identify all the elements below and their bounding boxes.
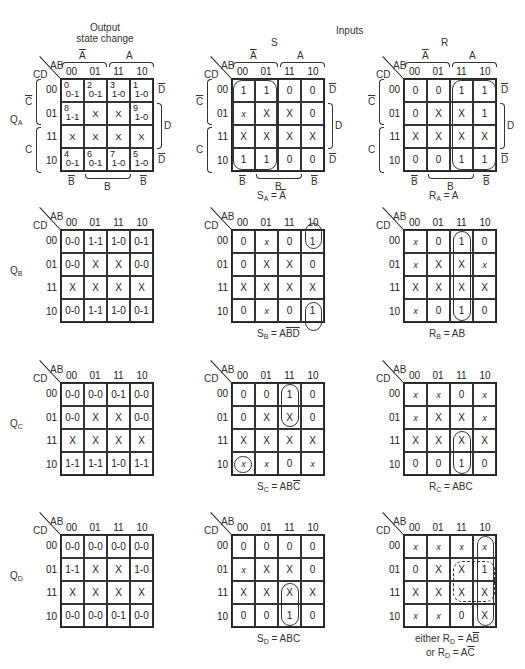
cell-value: x (413, 306, 417, 316)
cell-value: 0-0 (65, 541, 79, 552)
cell-value: 1-1 (134, 458, 148, 469)
cell-value: X (138, 587, 145, 598)
row-label: 01 (384, 564, 400, 575)
kmap-cell: X (427, 125, 450, 148)
cell-value: X (435, 435, 442, 446)
cell-value: x (436, 611, 440, 621)
cell-value: X (138, 435, 145, 446)
cell-value: X (435, 108, 442, 119)
kmap-cell: X (427, 581, 450, 604)
d-bar-label-bottom: D (158, 154, 165, 165)
eq-sign: = (441, 328, 452, 339)
kmap-cell: X (404, 429, 427, 452)
kmap-cell: 0 (278, 148, 301, 171)
eq-rhs: ABC (280, 633, 301, 644)
row-label: 11 (212, 282, 228, 293)
c-bar-label: C (196, 96, 203, 107)
cell-value: 0 (436, 236, 442, 247)
kmap-cell: X (473, 429, 496, 452)
cell-value: X (92, 108, 98, 119)
kmap-cell: 31-0 (107, 79, 130, 102)
row-label: 01 (384, 412, 400, 423)
cell-value: 0 (287, 236, 293, 247)
kmap-cell: 0 (278, 79, 301, 102)
cell-value: 0 (241, 541, 247, 552)
kmap-cell: 40-1 (61, 148, 84, 171)
cell-value: 0 (436, 305, 442, 316)
kmap-cell: x (473, 406, 496, 429)
column-label: 00 (60, 217, 83, 228)
a-bar-brace (62, 62, 107, 67)
kmap-cell: X (255, 429, 278, 452)
row-label: 11 (384, 435, 400, 446)
kmap-cell: 0-0 (130, 604, 153, 627)
kmap-cell: 0 (427, 79, 450, 102)
row-label: 00 (212, 84, 228, 95)
cell-value: X (458, 412, 465, 423)
column-label: 11 (450, 66, 473, 77)
kmap-cell: X (255, 558, 278, 581)
cell-value: X (286, 131, 293, 142)
kmap-cell: X (61, 125, 84, 148)
eq-line2: or RD = AC (415, 647, 479, 661)
kmap-cell: 0 (301, 253, 324, 276)
r-kmap-grid: xx0xxXXxXXXX0010 (403, 382, 497, 476)
kmap-cell: x (473, 253, 496, 276)
row-label: 11 (41, 435, 57, 446)
kmap-cell: x (255, 230, 278, 253)
row-label: 00 (212, 388, 228, 399)
cell-value: x (310, 459, 314, 469)
cd-axis-label: CD (204, 220, 218, 231)
r-c-grouping-loop (453, 431, 471, 474)
s-c-circled-dont-care (234, 456, 252, 474)
row-label: 10 (41, 611, 57, 622)
column-label: 10 (474, 217, 497, 228)
a-label: A (469, 50, 476, 61)
cell-index: 8 (64, 103, 69, 113)
row-label: 00 (41, 84, 57, 95)
cell-value: 0-0 (65, 389, 79, 400)
eq-rhs: A (279, 328, 286, 339)
cell-value: 0-0 (134, 389, 148, 400)
eq-sign: = (269, 481, 280, 492)
a-label: A (297, 50, 304, 61)
eq-rhs: A (466, 633, 473, 644)
a-bar-brace (233, 62, 278, 67)
kmap-cell: 51-0 (130, 148, 153, 171)
kmap-cell: X (130, 125, 153, 148)
kmap-cell: X (107, 429, 130, 452)
cell-value: X (435, 131, 442, 142)
kmap-cell: 0 (232, 299, 255, 322)
b-bar-label-right: B (140, 176, 147, 187)
kmap-cell: 0 (404, 452, 427, 475)
kmap-cell: X (301, 125, 324, 148)
s-column-title: S (271, 37, 278, 48)
column-label: 00 (60, 370, 83, 381)
cell-value: 0 (413, 154, 419, 165)
q-letter: Q (10, 265, 18, 276)
column-label: 10 (474, 370, 497, 381)
cell-value: x (413, 611, 417, 621)
row-label: 00 (212, 540, 228, 551)
cell-value: 0-0 (88, 610, 102, 621)
b-bar-label-left: B (68, 176, 75, 187)
cell-value: 0-0 (65, 305, 79, 316)
kmap-cell: X (61, 581, 84, 604)
cell-value: x (241, 565, 245, 575)
row-label-qb: QB (10, 265, 22, 279)
row-label: 01 (384, 259, 400, 270)
kmap-cell: X (278, 102, 301, 125)
cell-value: X (115, 412, 122, 423)
cell-value: 0 (287, 541, 293, 552)
cell-value: 0 (264, 389, 270, 400)
eq-lhs: S (257, 328, 264, 339)
eq-lhs: S (257, 633, 264, 644)
kmap-cell: 0-0 (61, 299, 84, 322)
kmap-cell: X (84, 558, 107, 581)
cell-value: 1-1 (65, 564, 79, 575)
cell-value: X (309, 587, 316, 598)
row-label-qa: QA (10, 114, 22, 128)
r-column-title: R (441, 37, 448, 48)
kmap-cell: X (84, 429, 107, 452)
cell-value: 0-0 (134, 412, 148, 423)
